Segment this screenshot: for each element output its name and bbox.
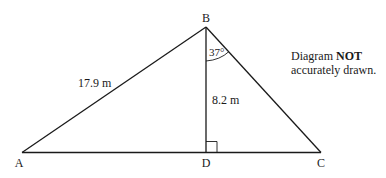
- vertex-label-a: A: [15, 156, 24, 170]
- not-to-scale-note: Diagram NOT accurately drawn.: [291, 49, 376, 77]
- vertex-label-c: C: [317, 156, 325, 170]
- side-ab: [22, 27, 206, 153]
- note-line-2: accurately drawn.: [291, 63, 376, 77]
- length-label-bd: 8.2 m: [212, 93, 240, 107]
- note-line-1: Diagram NOT: [291, 49, 376, 63]
- angle-label-b: 37°: [209, 46, 224, 58]
- vertex-label-b: B: [202, 11, 210, 25]
- vertex-label-d: D: [202, 156, 211, 170]
- note-emphasis: NOT: [336, 49, 362, 63]
- note-line-1-prefix: Diagram: [291, 49, 336, 63]
- right-angle-marker: [206, 142, 217, 153]
- triangle-diagram: B A D C 17.9 m 8.2 m 37°: [0, 0, 386, 178]
- length-label-ab: 17.9 m: [78, 76, 112, 90]
